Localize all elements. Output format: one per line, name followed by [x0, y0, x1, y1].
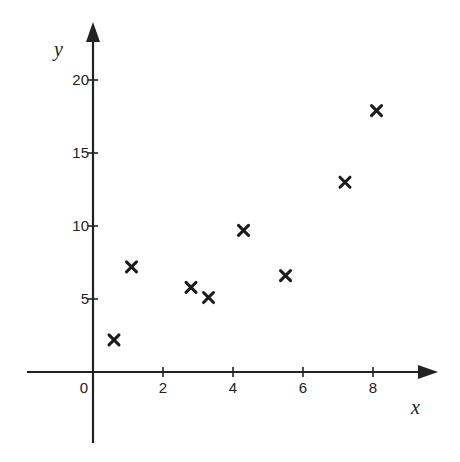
cross-marker-icon [239, 225, 249, 235]
scatter-chart: 02468 5101520 y x [0, 0, 460, 462]
y-axis-label: y [52, 38, 63, 61]
cross-marker-icon [340, 177, 350, 187]
x-axis-arrow-icon [418, 365, 438, 379]
x-tick-label: 2 [159, 379, 167, 396]
y-axis-arrow-icon [86, 22, 100, 42]
cross-marker-icon [372, 106, 382, 116]
cross-marker-icon [127, 262, 137, 272]
cross-marker-icon [109, 335, 119, 345]
data-points [109, 106, 382, 345]
cross-marker-icon [204, 293, 214, 303]
x-tick-label: 0 [80, 379, 88, 396]
y-tick-label: 15 [72, 144, 89, 161]
y-tick-label: 5 [81, 290, 89, 307]
cross-marker-icon [186, 282, 196, 292]
y-ticks: 5101520 [72, 71, 98, 307]
x-tick-label: 8 [369, 379, 377, 396]
x-axis-label: x [410, 396, 420, 418]
x-tick-label: 4 [229, 379, 237, 396]
y-tick-label: 10 [72, 217, 89, 234]
cross-marker-icon [281, 271, 291, 281]
y-tick-label: 20 [72, 71, 89, 88]
x-tick-label: 6 [299, 379, 307, 396]
